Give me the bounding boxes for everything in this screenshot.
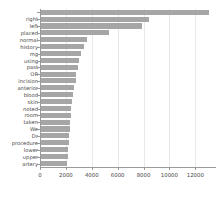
y-axis-tick — [37, 136, 40, 137]
plot-area — [40, 9, 216, 167]
y-axis-tick-label: upper — [23, 154, 38, 160]
y-axis-tick-label: incision — [18, 78, 38, 84]
y-axis-tick — [37, 61, 40, 62]
x-axis-tick — [66, 167, 67, 170]
bar — [40, 113, 71, 118]
x-axis-tick — [40, 167, 41, 170]
bar — [40, 51, 81, 56]
x-axis-tick-label: 10000 — [161, 172, 178, 178]
y-axis-tick-label: room — [25, 112, 38, 118]
y-axis-tick — [37, 74, 40, 75]
y-axis-tick-label: anterior — [17, 85, 38, 91]
bar — [40, 58, 79, 63]
y-axis-tick-label: taken — [23, 119, 38, 125]
y-axis-tick — [37, 12, 40, 13]
x-axis-tick — [195, 167, 196, 170]
gridline — [195, 9, 196, 167]
bar — [40, 10, 209, 15]
y-axis-tick — [37, 102, 40, 103]
y-axis-tick — [37, 81, 40, 82]
y-axis-labels: rightleftplacednormalhistorymgusingpastO… — [0, 9, 40, 167]
bar — [40, 72, 76, 77]
bar-chart: rightleftplacednormalhistorymgusingpastO… — [0, 0, 222, 200]
bar — [40, 30, 109, 35]
x-axis-tick — [92, 167, 93, 170]
y-axis-tick-label: procedure — [12, 140, 38, 146]
y-axis-tick — [37, 33, 40, 34]
y-axis-tick — [37, 40, 40, 41]
bar — [40, 65, 78, 70]
y-axis-tick-label: placed — [21, 30, 38, 36]
y-axis-tick — [37, 47, 40, 48]
bar — [40, 133, 69, 138]
bar — [40, 106, 71, 111]
x-axis-tick-label: 8000 — [137, 172, 151, 178]
y-axis-tick-label: lower — [24, 147, 38, 153]
bar — [40, 147, 68, 152]
bar — [40, 99, 72, 104]
y-axis-tick-label: artery — [22, 161, 38, 167]
bar — [40, 126, 70, 131]
gridline — [118, 9, 119, 167]
x-axis-tick — [169, 167, 170, 170]
bar — [40, 78, 76, 83]
bar — [40, 23, 142, 28]
y-axis-tick — [37, 95, 40, 96]
y-axis-tick — [37, 157, 40, 158]
y-axis-tick — [37, 150, 40, 151]
y-axis-tick — [37, 143, 40, 144]
bar — [40, 120, 70, 125]
bar — [40, 92, 73, 97]
x-axis-tick-label: 0 — [38, 172, 41, 178]
y-axis-tick — [37, 115, 40, 116]
bar — [40, 44, 84, 49]
y-axis-tick-label: normal — [20, 37, 38, 43]
gridline — [169, 9, 170, 167]
bar — [40, 161, 67, 166]
x-axis-tick-label: 6000 — [111, 172, 125, 178]
y-axis-tick — [37, 122, 40, 123]
bar — [40, 140, 69, 145]
x-axis-tick — [144, 167, 145, 170]
y-axis-tick-label: using — [24, 58, 38, 64]
x-axis-tick-label: 4000 — [85, 172, 99, 178]
bar — [40, 85, 74, 90]
y-axis-tick-label: blood — [24, 92, 38, 98]
y-axis-tick — [37, 164, 40, 165]
y-axis-tick — [37, 129, 40, 130]
y-axis-tick-label: history — [20, 44, 38, 50]
x-axis-tick-label: 2000 — [59, 172, 73, 178]
x-axis-tick — [118, 167, 119, 170]
y-axis-tick — [37, 88, 40, 89]
y-axis-tick-label: noted — [23, 106, 38, 112]
y-axis-tick — [37, 19, 40, 20]
x-axis-tick-label: 12000 — [187, 172, 204, 178]
y-axis-tick — [37, 26, 40, 27]
y-axis-tick — [37, 54, 40, 55]
bar — [40, 154, 68, 159]
y-axis-tick — [37, 109, 40, 110]
bar — [40, 37, 87, 42]
y-axis-line — [40, 9, 41, 167]
gridline — [144, 9, 145, 167]
y-axis-tick — [37, 67, 40, 68]
bar — [40, 17, 149, 22]
